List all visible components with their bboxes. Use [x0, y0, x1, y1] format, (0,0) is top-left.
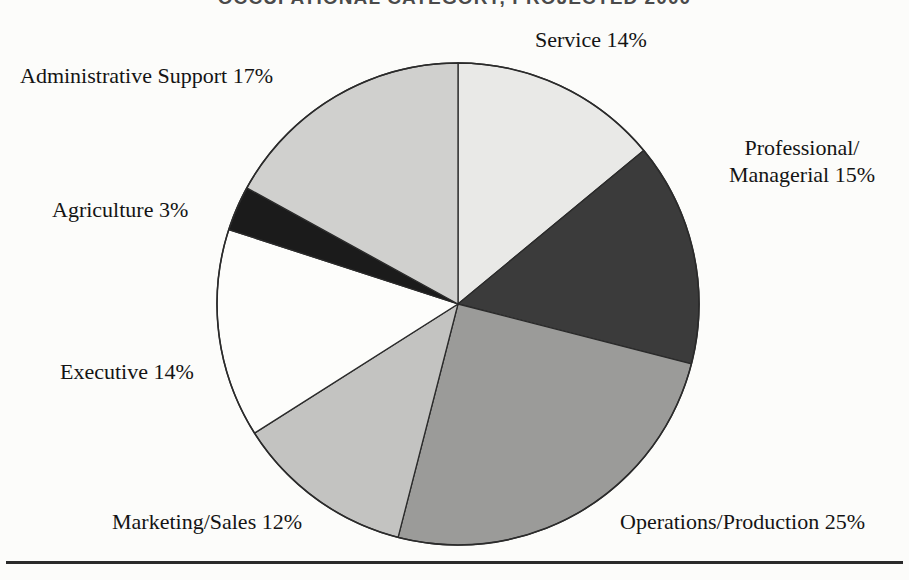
- pie-label-agriculture: Agriculture 3%: [52, 196, 188, 223]
- pie-label-marketing-sales: Marketing/Sales 12%: [112, 508, 302, 535]
- chart-title: OCCUPATIONAL CATEGORY, PROJECTED 2000: [0, 0, 909, 9]
- bottom-rule: [6, 561, 903, 564]
- pie-chart: Service 14%Managerial 15%Operations/Prod…: [216, 62, 700, 546]
- pie-label-administrative-support: Administrative Support 17%: [20, 62, 273, 89]
- pie-label-professional-line2: Managerial 15%: [729, 162, 875, 187]
- pie-label-service: Service 14%: [535, 26, 647, 53]
- pie-label-operations-production: Operations/Production 25%: [620, 508, 865, 535]
- pie-label-executive: Executive 14%: [60, 358, 194, 385]
- pie-slice-group: Service 14%Managerial 15%Operations/Prod…: [217, 63, 699, 545]
- pie-label-professional-line1: Professional/: [745, 135, 860, 160]
- pie-chart-svg: Service 14%Managerial 15%Operations/Prod…: [216, 62, 700, 546]
- pie-label-professional-managerial: Professional/ Managerial 15%: [712, 134, 892, 188]
